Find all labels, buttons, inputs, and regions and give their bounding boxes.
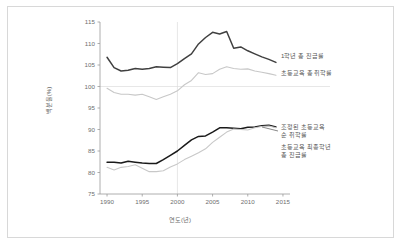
x-tick-label: 2010 bbox=[233, 198, 263, 205]
y-tick-label: 85 bbox=[70, 147, 95, 154]
series-line-1 bbox=[107, 31, 276, 71]
x-tick-label: 1995 bbox=[127, 198, 157, 205]
series-label-1: 1학년 총 진급률 bbox=[281, 52, 324, 60]
series-line-2 bbox=[107, 67, 276, 100]
y-tick-label: 110 bbox=[70, 40, 95, 47]
series-group bbox=[107, 31, 276, 171]
series-label-4: 순 취학률 bbox=[281, 131, 307, 139]
y-tick-label: 90 bbox=[70, 126, 95, 133]
x-axis-label: 연도(년) bbox=[120, 215, 240, 224]
y-tick-label: 80 bbox=[70, 169, 95, 176]
y-tick-label: 115 bbox=[70, 18, 95, 25]
x-tick-label: 2015 bbox=[268, 198, 298, 205]
series-line-3 bbox=[107, 125, 276, 163]
y-tick-label: 100 bbox=[70, 83, 95, 90]
grid-group bbox=[100, 22, 330, 194]
x-tick-label: 1990 bbox=[92, 198, 122, 205]
series-label-2: 초등교육 총 취학률 bbox=[281, 69, 332, 77]
axis-group bbox=[98, 22, 291, 197]
series-label-6: 총 진급률 bbox=[281, 151, 307, 159]
y-tick-label: 95 bbox=[70, 104, 95, 111]
line-chart-canvas bbox=[0, 0, 403, 248]
x-tick-label: 2000 bbox=[162, 198, 192, 205]
series-label-3: 조정된 초등교육 bbox=[281, 123, 325, 131]
y-tick-label: 105 bbox=[70, 61, 95, 68]
x-tick-label: 2005 bbox=[198, 198, 228, 205]
series-line-4 bbox=[107, 126, 276, 172]
y-tick-label: 75 bbox=[70, 190, 95, 197]
series-label-5: 초등교육 최종학년 bbox=[281, 143, 331, 151]
y-axis-label: 백분율(%) bbox=[44, 71, 53, 131]
